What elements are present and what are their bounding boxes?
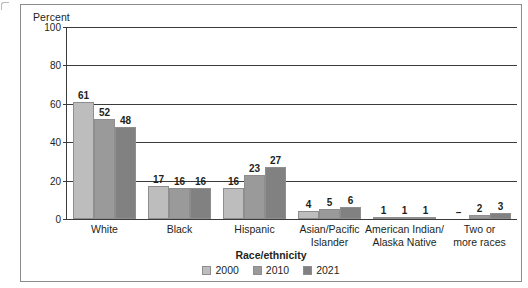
bar-2021-1[interactable] [115, 127, 136, 219]
legend-item-2000[interactable]: 2000 [202, 264, 238, 276]
bar-value-label: 48 [111, 115, 141, 126]
bar-2000-1[interactable] [73, 102, 94, 219]
chart-legend: Race/ethnicity 200020102021 [21, 249, 521, 276]
y-tick-mark-20 [63, 181, 67, 182]
bar-2010-2[interactable] [169, 188, 190, 219]
figure-frame: Percent 020406080100615248White171616Bla… [20, 4, 522, 282]
bar-group: –23 [448, 27, 511, 219]
y-tick-mark-0 [63, 219, 67, 220]
bar-value-label: 61 [69, 90, 99, 101]
bar-group: 456 [298, 27, 361, 219]
legend-item-2010[interactable]: 2010 [253, 264, 289, 276]
y-tick-label-100: 100 [44, 22, 61, 33]
bar-2010-5[interactable] [394, 217, 415, 219]
y-tick-mark-40 [63, 142, 67, 143]
legend-swatch-icon [253, 266, 262, 275]
legend-item-2021[interactable]: 2021 [303, 264, 339, 276]
bar-value-label: 6 [336, 195, 366, 206]
page-corner-mark [1, 2, 9, 10]
x-axis-category-label: Two ormore races [420, 223, 528, 248]
y-tick-mark-100 [63, 27, 67, 28]
bar-2010-6[interactable] [469, 215, 490, 219]
bar-2010-3[interactable] [244, 175, 265, 219]
plot-wrapper: Percent 020406080100615248White171616Bla… [21, 5, 521, 281]
bar-group: 171616 [148, 27, 211, 219]
bar-2000-5[interactable] [373, 217, 394, 219]
bar-2000-3[interactable] [223, 188, 244, 219]
legend-items: 200020102021 [21, 264, 521, 276]
x-axis-category-line: more races [420, 236, 528, 249]
y-tick-label-40: 40 [50, 137, 61, 148]
bar-group: 111 [373, 27, 436, 219]
bar-2000-2[interactable] [148, 186, 169, 219]
bar-value-label: 16 [186, 176, 216, 187]
y-tick-label-80: 80 [50, 60, 61, 71]
legend-swatch-icon [303, 266, 312, 275]
bar-value-label: 1 [411, 205, 441, 216]
bar-2021-6[interactable] [490, 213, 511, 219]
y-tick-label-60: 60 [50, 98, 61, 109]
legend-label: 2010 [266, 264, 289, 276]
bar-group: 615248 [73, 27, 136, 219]
bar-2021-4[interactable] [340, 207, 361, 219]
bar-2021-3[interactable] [265, 167, 286, 219]
plot-area: 020406080100615248White171616Black162327… [66, 27, 517, 220]
legend-swatch-icon [202, 266, 211, 275]
bar-2021-5[interactable] [415, 217, 436, 219]
legend-title: Race/ethnicity [21, 249, 521, 261]
y-tick-mark-60 [63, 104, 67, 105]
y-tick-label-20: 20 [50, 175, 61, 186]
bar-2021-2[interactable] [190, 188, 211, 219]
bar-value-label: 27 [261, 155, 291, 166]
x-axis-category-line: Two or [420, 223, 528, 236]
bar-2010-4[interactable] [319, 209, 340, 219]
bar-2000-4[interactable] [298, 211, 319, 219]
y-tick-mark-80 [63, 65, 67, 66]
legend-label: 2021 [316, 264, 339, 276]
bar-value-label: 3 [486, 201, 516, 212]
bar-group: 162327 [223, 27, 286, 219]
bar-2010-1[interactable] [94, 119, 115, 219]
legend-label: 2000 [215, 264, 238, 276]
